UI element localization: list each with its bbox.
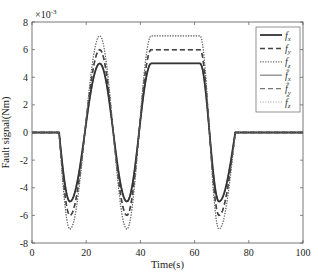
x-tick-label: 0 <box>30 247 35 258</box>
x-tick-label: 100 <box>296 247 311 258</box>
x-axis-label: Time(s) <box>151 259 184 271</box>
y-axis-label: Fault signal(Nm) <box>0 96 12 169</box>
y-tick-label: 2 <box>23 99 28 110</box>
x-tick-label: 80 <box>244 247 254 258</box>
legend-box <box>256 27 300 112</box>
x-tick-label: 20 <box>81 247 91 258</box>
fault-signal-chart: 020406080100 86420-2-4-6-8 ×10-3 Time(s)… <box>0 0 318 278</box>
legend: fxfyfzf̂xf̂yf̂z <box>256 27 300 112</box>
x-tick-label: 40 <box>135 247 145 258</box>
y-tick-label: 6 <box>23 44 28 55</box>
y-tick-label: -6 <box>20 210 28 221</box>
y-tick-label: 0 <box>23 127 28 138</box>
y-exponent-label: ×10-3 <box>35 8 57 20</box>
x-tick-label: 60 <box>190 247 200 258</box>
y-tick-label: 8 <box>23 17 28 28</box>
y-tick-label: -4 <box>20 182 28 193</box>
y-tick-label: -2 <box>20 155 28 166</box>
y-tick-label: 4 <box>23 72 28 83</box>
y-tick-label: -8 <box>20 238 28 249</box>
